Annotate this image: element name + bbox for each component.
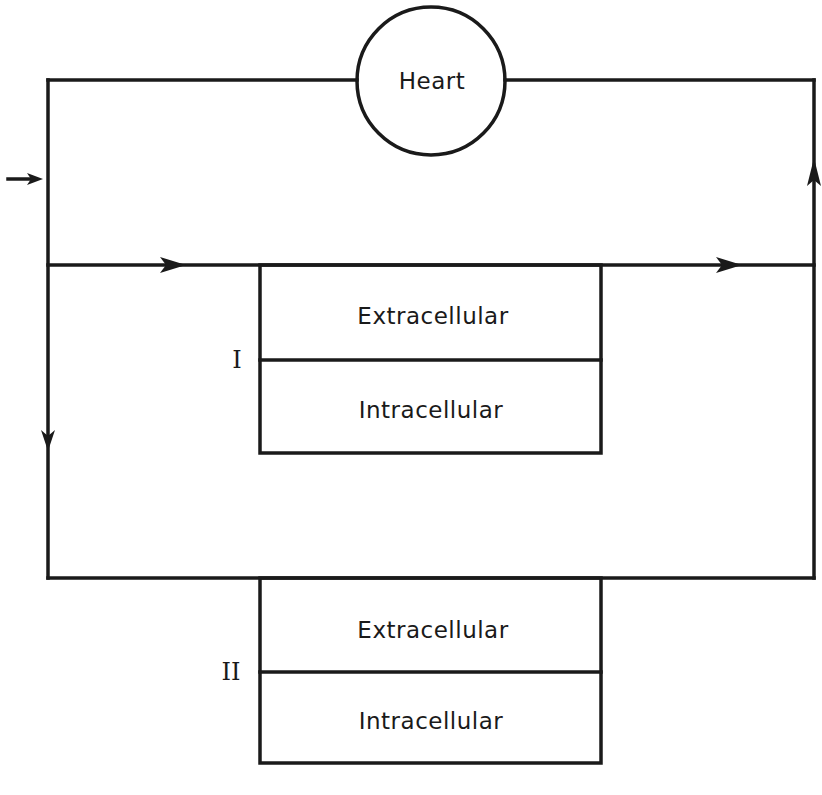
compartment-I-intracellular-label: Intracellular xyxy=(359,397,504,423)
compartment-I-label: I xyxy=(232,346,241,374)
compartment-II-label: II xyxy=(222,658,241,686)
compartment-II-extracellular-label: Extracellular xyxy=(357,617,508,643)
compartment-I-extracellular-label: Extracellular xyxy=(357,303,508,329)
compartment-II-intracellular-label: Intracellular xyxy=(359,708,504,734)
heart-label: Heart xyxy=(399,68,466,94)
